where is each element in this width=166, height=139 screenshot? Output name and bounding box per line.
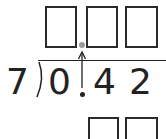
dividend-digit-4: 4 xyxy=(93,64,116,100)
divisor: 7 xyxy=(6,64,29,100)
dividend-digit-0: 0 xyxy=(48,64,71,100)
work-box-1[interactable] xyxy=(88,117,119,139)
division-bracket-icon xyxy=(37,62,42,97)
work-box-2[interactable] xyxy=(125,117,158,139)
dividend-decimal-point xyxy=(80,92,85,97)
dividend-digit-2: 2 xyxy=(129,64,152,100)
